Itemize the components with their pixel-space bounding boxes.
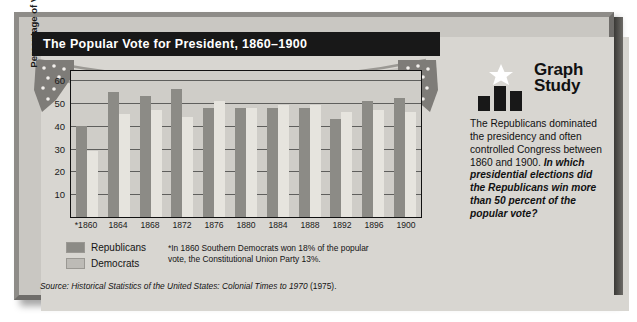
x-tick-1864: 1864 xyxy=(102,220,134,230)
graph-study-panel: Graph Study The Republicans dominated th… xyxy=(470,62,610,277)
bar-democrats-1864 xyxy=(119,114,130,217)
x-tick-1860: *1860 xyxy=(70,220,102,230)
graph-study-text: The Republicans dominated the presidency… xyxy=(470,118,610,221)
x-tick-1868: 1868 xyxy=(134,220,166,230)
bar-group xyxy=(71,71,103,217)
y-tick-40: 40 xyxy=(54,120,65,131)
source-title: Historical Statistics of the United Stat… xyxy=(71,281,307,291)
x-tick-1888: 1888 xyxy=(294,220,326,230)
bar-group xyxy=(262,71,294,217)
bar-democrats-1860 xyxy=(87,151,98,217)
x-tick-1900: 1900 xyxy=(390,220,422,230)
bar-republicans-1892 xyxy=(330,119,341,217)
page-right-edge xyxy=(614,17,623,295)
plot-area: 102030405060 xyxy=(70,70,422,218)
bar-democrats-1900 xyxy=(405,112,416,217)
bar-democrats-1888 xyxy=(310,105,321,217)
bar-group xyxy=(294,71,326,217)
bar-republicans-1876 xyxy=(203,108,214,218)
graph-study-title: Graph Study xyxy=(534,62,583,94)
chart-legend: Republicans Democrats xyxy=(66,242,146,274)
bar-democrats-1896 xyxy=(373,110,384,217)
bar-republicans-1864 xyxy=(108,92,119,217)
x-tick-1896: 1896 xyxy=(358,220,390,230)
bar-group xyxy=(230,71,262,217)
bar-republicans-1896 xyxy=(362,101,373,217)
page-title: The Popular Vote for President, 1860–190… xyxy=(32,37,307,51)
bar-republicans-1880 xyxy=(235,108,246,218)
bar-chart: Percentage of Vote 102030405060 *1860186… xyxy=(32,62,432,232)
y-tick-60: 60 xyxy=(54,75,65,86)
y-tick-50: 50 xyxy=(54,97,65,108)
bar-republicans-1888 xyxy=(299,108,310,218)
y-tick-10: 10 xyxy=(54,189,65,200)
bar-democrats-1884 xyxy=(278,105,289,217)
bar-democrats-1892 xyxy=(341,112,352,217)
source-line: Source: Historical Statistics of the Uni… xyxy=(40,281,336,291)
bar-group xyxy=(326,71,358,217)
chart-footnote: *In 1860 Southern Democrats won 18% of t… xyxy=(168,243,386,266)
x-tick-1892: 1892 xyxy=(326,220,358,230)
x-axis-ticks: *186018641868187218761880188418881892189… xyxy=(70,220,422,230)
bar-republicans-1860 xyxy=(76,126,87,217)
bar-group xyxy=(135,71,167,217)
bar-democrats-1876 xyxy=(214,101,225,217)
legend-label-democrats: Democrats xyxy=(91,258,139,269)
bar-group xyxy=(357,71,389,217)
bar-republicans-1868 xyxy=(140,96,151,217)
bar-group xyxy=(166,71,198,217)
bar-group xyxy=(103,71,135,217)
bar-republicans-1900 xyxy=(394,98,405,217)
legend-swatch-democrats xyxy=(66,258,85,269)
bar-republicans-1872 xyxy=(171,89,182,217)
legend-item-republicans: Republicans xyxy=(66,242,146,253)
bar-chart-star-logo-icon xyxy=(472,64,530,112)
y-axis-title: Percentage of Vote xyxy=(28,0,39,80)
graph-study-page: The Popular Vote for President, 1860–190… xyxy=(0,0,637,322)
bar-democrats-1880 xyxy=(246,108,257,218)
x-tick-1872: 1872 xyxy=(166,220,198,230)
y-tick-30: 30 xyxy=(54,143,65,154)
graph-study-title-line2: Study xyxy=(534,78,583,94)
bar-democrats-1868 xyxy=(151,110,162,217)
x-tick-1880: 1880 xyxy=(230,220,262,230)
bar-group xyxy=(198,71,230,217)
bar-group xyxy=(389,71,421,217)
x-tick-1884: 1884 xyxy=(262,220,294,230)
legend-swatch-republicans xyxy=(66,242,85,253)
x-tick-1876: 1876 xyxy=(198,220,230,230)
source-label: Source: xyxy=(40,281,69,291)
chart-title-bar: The Popular Vote for President, 1860–190… xyxy=(32,32,440,56)
legend-label-republicans: Republicans xyxy=(91,242,146,253)
graph-study-header: Graph Study xyxy=(470,62,610,114)
source-year: (1975). xyxy=(310,281,337,291)
legend-item-democrats: Democrats xyxy=(66,258,146,269)
bar-groups xyxy=(71,71,421,217)
bar-democrats-1872 xyxy=(182,117,193,217)
y-tick-20: 20 xyxy=(54,166,65,177)
bar-republicans-1884 xyxy=(267,108,278,218)
